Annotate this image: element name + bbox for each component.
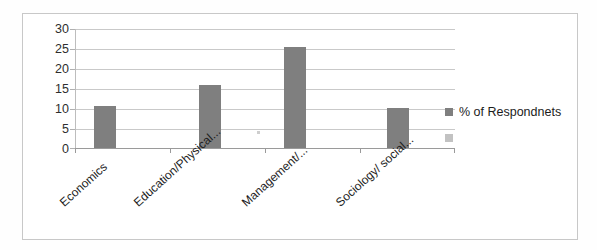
plot-area <box>75 29 455 149</box>
gridline <box>75 69 455 70</box>
x-axis-tick <box>454 149 455 153</box>
bar-economics[interactable] <box>94 106 116 148</box>
legend-entry-label: % of Respondnets <box>459 105 561 119</box>
x-axis-category-label-2: Management/... <box>239 143 310 209</box>
chart-screenshot: 30 25 20 15 10 5 0 <box>0 0 597 250</box>
legend-swatch-icon <box>445 108 453 116</box>
y-axis-line <box>75 29 76 149</box>
x-axis-tick <box>265 149 266 153</box>
legend-entry-respondents[interactable]: % of Respondnets <box>445 104 561 120</box>
y-axis-tick-label: 20 <box>43 63 69 76</box>
legend-entry-empty[interactable] <box>445 130 561 146</box>
x-axis-tick <box>360 149 361 153</box>
gridline <box>75 29 455 30</box>
y-axis-tick-label: 5 <box>43 123 69 136</box>
scan-artifact-speck <box>257 131 260 134</box>
chart-legend: % of Respondnets <box>445 104 561 146</box>
y-axis-tick-label: 15 <box>43 83 69 96</box>
y-axis-tick <box>70 49 75 50</box>
y-axis-tick-label: 10 <box>43 103 69 116</box>
y-axis-tick-label: 30 <box>43 23 69 36</box>
gridline <box>75 89 455 90</box>
x-axis-tick <box>75 149 76 153</box>
x-axis-category-label-0: Economics <box>57 160 110 210</box>
y-axis-tick <box>70 69 75 70</box>
bar-management[interactable] <box>284 47 306 148</box>
y-axis-tick <box>70 129 75 130</box>
y-axis-tick-label: 0 <box>43 143 69 156</box>
legend-swatch-icon <box>445 134 453 142</box>
y-axis-tick <box>70 109 75 110</box>
y-axis-tick <box>70 89 75 90</box>
y-axis-tick <box>70 29 75 30</box>
y-axis-labels: 30 25 20 15 10 5 0 <box>23 29 69 149</box>
x-axis-tick <box>170 149 171 153</box>
y-axis-tick-label: 25 <box>43 43 69 56</box>
gridline <box>75 49 455 50</box>
